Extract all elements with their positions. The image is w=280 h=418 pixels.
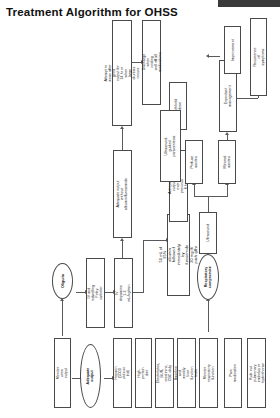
edge-line: [62, 300, 63, 336]
node-ultrasound-guided-paracentesis[interactable]: Ultrasound-guided paracentesis: [160, 110, 181, 182]
edge-line: [208, 196, 209, 212]
node-monitor-urine-output[interactable]: Monitor urine output: [54, 338, 71, 408]
node-label: Electrolytes, BUN, creatinine, CBC daily: [156, 363, 172, 383]
flowchart-canvas: Monitor urine output Adequate output Oli…: [0, 0, 280, 418]
node-albumin-furosemide[interactable]: 50 mL of 25% albumin followed immediatel…: [167, 214, 190, 296]
node-label: Respiratory compromise: [204, 266, 212, 288]
node-attempt-to-wean[interactable]: Attempt to wean after good output for 24…: [112, 20, 132, 126]
node-heparin[interactable]: Heparin (5000 units sc bid): [113, 338, 132, 408]
node-label: Baseline and weekly liver function tests: [174, 365, 198, 382]
node-label: Pain medication: [229, 364, 237, 382]
node-improvement[interactable]: Improvement: [224, 26, 241, 74]
node-label: Ultrasound-guided paracentesis: [164, 136, 176, 157]
node-label: IV and indwelling Foley catheter: [87, 285, 103, 302]
node-pain-medication[interactable]: Pain medication: [224, 338, 242, 408]
node-respiratory-compromise[interactable]: Respiratory compromise: [197, 254, 219, 300]
node-label: Rule out pulmonary embolus or hydrothora…: [248, 363, 264, 383]
node-monitor-respiratory[interactable]: Monitor respiratory function: [199, 338, 218, 408]
node-rule-out-pulmonary-embolus[interactable]: Rule out pulmonary embolus or hydrothora…: [247, 338, 266, 408]
edge-arrow: [120, 126, 124, 129]
node-label: Minimal ascites: [223, 154, 231, 170]
node-label: Monitor urine output: [56, 365, 68, 380]
node-label: Monitor respiratory function: [202, 364, 214, 382]
edge-arrow: [120, 238, 124, 241]
node-label: 50 mL of 25% albumin followed immediatel…: [159, 244, 198, 265]
node-electrolytes-labs[interactable]: Electrolytes, BUN, creatinine, CBC daily: [155, 338, 174, 408]
node-label: IV dopamine 1-3 mL/kg/min: [115, 284, 131, 301]
edge-line: [133, 292, 143, 293]
edge-line: [194, 184, 195, 196]
node-iv-dopamine[interactable]: IV dopamine 1-3 mL/kg/min: [114, 258, 133, 328]
edge-arrow: [206, 54, 209, 58]
node-label: Adequate output without albumin/furosemi…: [116, 178, 128, 210]
edge-arrow: [225, 132, 229, 135]
node-label: Adequate output: [86, 367, 94, 386]
node-label: High-protein diet: [137, 365, 149, 380]
edge-line: [122, 128, 123, 150]
node-discharge-when-voiding[interactable]: Discharge when voiding well off all medi…: [142, 20, 161, 105]
node-liver-function-tests[interactable]: Baseline and weekly liver function tests: [177, 338, 196, 408]
edge-line: [208, 56, 220, 57]
edge-line: [227, 184, 228, 196]
node-high-protein-diet[interactable]: High-protein diet: [135, 338, 152, 408]
node-label: Improvement: [230, 39, 234, 61]
node-profuse-ascites[interactable]: Profuse ascites: [185, 140, 203, 184]
node-label: Expectant management: [224, 85, 232, 106]
node-label: Attempt to wean after good output for 24…: [104, 64, 140, 82]
node-ultrasound[interactable]: Ultrasound: [199, 212, 217, 254]
node-label: Discharge when voiding well off all medi…: [141, 53, 161, 73]
node-adequate-output-no-albumin[interactable]: Adequate output without albumin/furosemi…: [113, 150, 132, 238]
node-label: Ultrasound: [206, 224, 210, 242]
edge-line: [194, 196, 228, 197]
edge-line: [208, 300, 209, 332]
node-minimal-ascites[interactable]: Minimal ascites: [218, 140, 236, 184]
node-oliguria[interactable]: Oliguria: [52, 263, 73, 299]
node-adequate-output[interactable]: Adequate output: [80, 344, 101, 408]
node-recurrence-of-symptoms[interactable]: Recurrence of symptoms: [250, 18, 267, 96]
node-iv-foley[interactable]: IV and indwelling Foley catheter: [86, 258, 105, 328]
edge-line: [143, 240, 167, 241]
edge-line: [143, 240, 144, 293]
node-label: Heparin (5000 units sc bid): [114, 365, 130, 382]
node-label: Oliguria: [60, 274, 64, 288]
node-label: Profuse ascites: [190, 154, 198, 170]
node-label: Recurrence of symptoms: [252, 47, 264, 66]
